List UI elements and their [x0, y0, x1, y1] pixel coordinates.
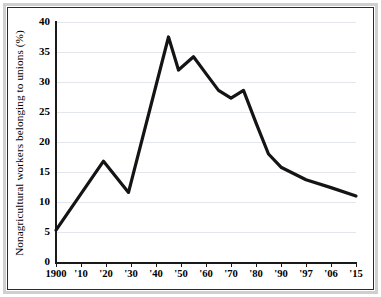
x-axis-tick — [56, 263, 57, 267]
x-axis-tick — [256, 263, 257, 267]
x-axis-tick — [106, 263, 107, 267]
figure-frame-outer: Nonagricultural workers belonging to uni… — [0, 0, 381, 297]
x-axis-tick-label: '90 — [274, 268, 288, 279]
series-line — [56, 37, 356, 230]
y-axis-tick-label: 20 — [24, 135, 50, 147]
series-union-membership — [56, 22, 356, 262]
x-axis-tick — [81, 263, 82, 267]
x-axis-tick — [306, 263, 307, 267]
y-axis-tick-label: 5 — [24, 225, 50, 237]
x-axis-tick-label: '50 — [174, 268, 188, 279]
y-axis-tick-label: 30 — [24, 75, 50, 87]
y-axis-tick-label: 25 — [24, 105, 50, 117]
x-axis-tick-label: '20 — [99, 268, 113, 279]
x-axis-tick-label: '97 — [299, 268, 313, 279]
x-axis-tick — [231, 263, 232, 267]
x-axis-tick-label: '15 — [349, 268, 363, 279]
x-axis-tick — [156, 263, 157, 267]
x-axis-tick — [331, 263, 332, 267]
x-axis-tick — [356, 263, 357, 267]
x-axis-tick-label: '60 — [199, 268, 213, 279]
x-axis-tick-label: '10 — [74, 268, 88, 279]
x-axis-tick-label: '80 — [249, 268, 263, 279]
x-axis-tick-label: '06 — [324, 268, 338, 279]
line-chart: Nonagricultural workers belonging to uni… — [0, 0, 381, 297]
x-axis-tick-label: '70 — [224, 268, 238, 279]
y-axis-tick-label: 15 — [24, 165, 50, 177]
x-axis-tick — [181, 263, 182, 267]
y-axis-tick-label: 0 — [24, 255, 50, 267]
x-axis-tick — [281, 263, 282, 267]
y-axis-tick-label: 35 — [24, 45, 50, 57]
x-axis-tick-label: '40 — [149, 268, 163, 279]
x-axis-tick-label: 1900 — [45, 268, 66, 279]
x-axis-tick — [131, 263, 132, 267]
x-axis-tick-label: '30 — [124, 268, 138, 279]
y-axis-tick-label: 10 — [24, 195, 50, 207]
x-axis-tick — [206, 263, 207, 267]
y-axis-tick-label: 40 — [24, 15, 50, 27]
